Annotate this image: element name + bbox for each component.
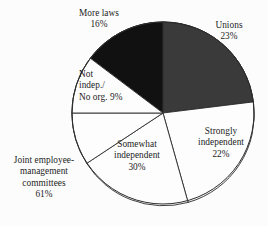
pie-label-more-laws-line-1: More laws — [58, 8, 140, 19]
pie-label-strongly-independent: Strongly independent 22% — [183, 126, 259, 160]
pie-label-somewhat-independent: Somewhat independent 30% — [98, 139, 176, 173]
pie-label-not-independent-no-organization: Not indep./ No org. 9% — [79, 69, 157, 103]
pie-chart-figure: More laws 16% Unions 23% Not indep./ No … — [0, 0, 268, 226]
pie-label-strongly-line-1: Strongly — [183, 126, 259, 137]
pie-label-more-laws: More laws 16% — [58, 8, 140, 31]
pie-label-joint-employee-management-committees: Joint employee- management committees 61… — [2, 155, 86, 201]
pie-label-unions: Unions 23% — [196, 20, 262, 43]
pie-label-somewhat-line-2: independent — [98, 150, 176, 161]
pie-label-joint-line-2: management — [2, 166, 86, 177]
pie-label-joint-line-1: Joint employee- — [2, 155, 86, 166]
pie-label-strongly-value: 22% — [183, 149, 259, 160]
pie-label-somewhat-line-1: Somewhat — [98, 139, 176, 150]
pie-label-somewhat-value: 30% — [98, 162, 176, 173]
pie-label-strongly-line-2: independent — [183, 137, 259, 148]
pie-label-not-indep-line-1: Not — [79, 69, 157, 80]
pie-label-unions-line-1: Unions — [196, 20, 262, 31]
pie-label-joint-line-3: committees — [2, 178, 86, 189]
pie-label-not-indep-line-3: No org. 9% — [79, 92, 157, 103]
pie-label-joint-value: 61% — [2, 189, 86, 200]
pie-label-more-laws-value: 16% — [58, 19, 140, 30]
pie-label-unions-value: 23% — [196, 31, 262, 42]
pie-label-not-indep-line-2: indep./ — [79, 80, 157, 91]
